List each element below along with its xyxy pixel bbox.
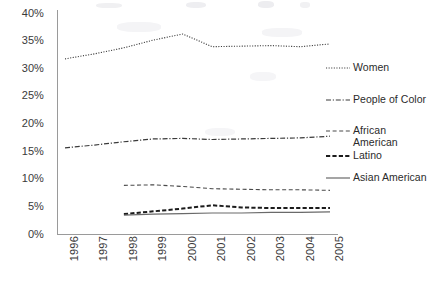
legend-item[interactable]: Latino [326, 150, 382, 162]
legend-item[interactable]: Asian American [326, 172, 427, 184]
legend-line-swatch [326, 172, 350, 182]
scan-artifact [258, 1, 274, 8]
x-axis-labels: 1996199719981999200020012002200320042005 [57, 236, 338, 282]
y-axis-labels: 0%5%10%15%20%25%30%35%40% [0, 0, 54, 246]
y-axis-tick-label: 20% [22, 118, 44, 129]
line-chart: 0%5%10%15%20%25%30%35%40% 19961997199819… [0, 0, 432, 282]
x-axis-tick-label: 1998 [128, 236, 139, 261]
series-line-women [65, 34, 330, 59]
legend-line-swatch [326, 125, 350, 135]
scan-artifact [186, 2, 206, 8]
legend-item[interactable]: People of Color [326, 94, 426, 106]
x-axis-tick-label: 2005 [334, 236, 345, 261]
y-axis-tick-label: 0% [28, 229, 44, 240]
legend-item[interactable]: African American [326, 125, 398, 148]
x-axis-tick-label: 1997 [98, 236, 109, 261]
y-axis-tick-label: 10% [22, 173, 44, 184]
legend-label: Latino [353, 150, 382, 162]
series-lines [57, 10, 338, 235]
plot-area [57, 10, 338, 235]
legend-label: Women [353, 62, 389, 74]
y-axis-tick-label: 40% [22, 8, 44, 19]
series-line-people-of-color [65, 136, 330, 148]
x-axis-tick-label: 2003 [275, 236, 286, 261]
x-axis-tick-label: 2000 [187, 236, 198, 261]
legend-label: African American [353, 125, 398, 148]
scan-artifact [300, 2, 310, 8]
x-axis-tick-label: 1996 [69, 236, 80, 261]
y-axis-tick-label: 15% [22, 146, 44, 157]
scan-artifact [96, 3, 122, 8]
legend-line-swatch [326, 150, 350, 160]
legend-item[interactable]: Women [326, 62, 389, 74]
y-axis-tick-label: 35% [22, 35, 44, 46]
legend-label: Asian American [353, 172, 427, 184]
series-line-asian-american [124, 212, 330, 215]
series-line-african-american [124, 185, 330, 191]
x-axis-tick-label: 2002 [246, 236, 257, 261]
y-axis-tick-label: 30% [22, 63, 44, 74]
y-axis-tick-label: 5% [28, 201, 44, 212]
x-axis-tick-label: 2004 [305, 236, 316, 261]
x-axis-tick-label: 2001 [216, 236, 227, 261]
x-axis-tick-label: 1999 [157, 236, 168, 261]
y-axis-tick-label: 25% [22, 90, 44, 101]
legend-line-swatch [326, 62, 350, 72]
legend-line-swatch [326, 94, 350, 104]
legend-label: People of Color [353, 94, 426, 106]
